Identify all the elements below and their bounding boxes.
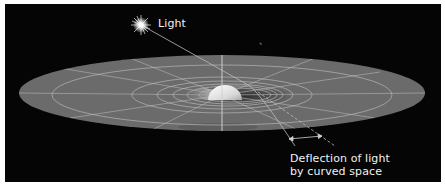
star-burst-icon (131, 15, 151, 35)
deflection-caption-line-2: by curved space (290, 165, 390, 178)
background-stars (259, 42, 261, 44)
light-label: Light (158, 17, 186, 30)
deflection-caption-line-1: Deflection of light (290, 152, 390, 165)
deflection-caption: Deflection of light by curved space (290, 152, 390, 178)
deflection-arrow (289, 134, 322, 141)
